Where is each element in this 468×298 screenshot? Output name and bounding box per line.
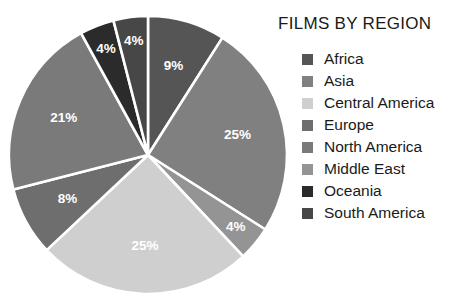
pie-chart-figure: 9%25%4%25%8%21%4%4% FILMS BY REGION Afri… (0, 0, 468, 298)
pie-slice-value-label: 25% (224, 127, 251, 142)
legend-color-swatch (302, 76, 313, 87)
legend-item[interactable]: North America (302, 136, 468, 158)
legend-item-label: Oceania (324, 183, 382, 199)
legend-item-label: North America (324, 139, 422, 155)
legend-color-swatch (302, 208, 313, 219)
legend-list: AfricaAsiaCentral AmericaEuropeNorth Ame… (278, 48, 468, 224)
legend: FILMS BY REGION AfricaAsiaCentral Americ… (278, 14, 468, 224)
pie-slice-value-label: 4% (96, 41, 116, 56)
legend-color-swatch (302, 186, 313, 197)
legend-color-swatch (302, 54, 313, 65)
legend-color-swatch (302, 164, 313, 175)
pie-slice-value-label: 8% (58, 191, 78, 206)
pie-slice-value-label: 25% (132, 238, 159, 253)
legend-item-label: South America (324, 205, 425, 221)
pie-svg: 9%25%4%25%8%21%4%4% (0, 0, 300, 298)
pie-slice-value-label: 21% (50, 110, 77, 125)
legend-item-label: Europe (324, 117, 374, 133)
pie-slice-value-label: 4% (226, 219, 246, 234)
pie-slice-value-label: 9% (164, 58, 184, 73)
legend-item[interactable]: Africa (302, 48, 468, 70)
legend-item[interactable]: Oceania (302, 180, 468, 202)
legend-color-swatch (302, 120, 313, 131)
legend-item[interactable]: Europe (302, 114, 468, 136)
legend-color-swatch (302, 98, 313, 109)
legend-item-label: Africa (324, 51, 364, 67)
legend-item-label: Central America (324, 95, 434, 111)
pie-plot-area: 9%25%4%25%8%21%4%4% (0, 0, 300, 298)
legend-item[interactable]: South America (302, 202, 468, 224)
pie-slice-value-label: 4% (124, 33, 144, 48)
legend-item[interactable]: Middle East (302, 158, 468, 180)
legend-item-label: Asia (324, 73, 354, 89)
legend-color-swatch (302, 142, 313, 153)
legend-item[interactable]: Central America (302, 92, 468, 114)
legend-item-label: Middle East (324, 161, 405, 177)
chart-title: FILMS BY REGION (278, 14, 468, 34)
legend-item[interactable]: Asia (302, 70, 468, 92)
